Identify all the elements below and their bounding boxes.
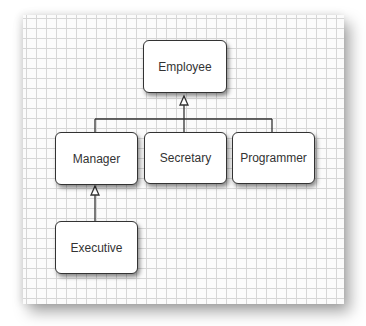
class-box-programmer[interactable]: Programmer <box>232 132 315 184</box>
class-label: Executive <box>70 241 122 255</box>
class-box-executive[interactable]: Executive <box>55 221 138 274</box>
class-label: Manager <box>73 152 120 166</box>
class-box-secretary[interactable]: Secretary <box>144 132 227 184</box>
class-box-manager[interactable]: Manager <box>55 132 138 185</box>
inheritance-arrow-icon <box>180 96 188 105</box>
class-label: Employee <box>158 60 211 74</box>
class-label: Programmer <box>240 151 307 165</box>
class-label: Secretary <box>160 151 211 165</box>
class-box-employee[interactable]: Employee <box>143 40 227 93</box>
inheritance-arrow-icon <box>91 186 99 195</box>
